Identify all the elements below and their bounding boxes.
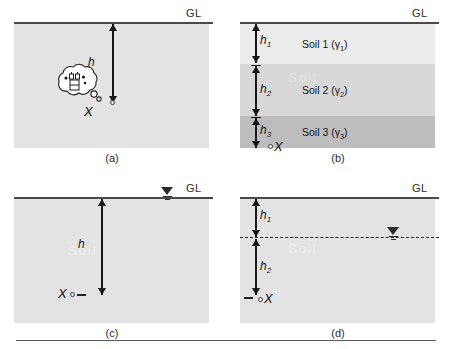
panel-c-depth-label: h [78,237,85,251]
panel-b-point-label: X [274,139,283,154]
panel-d-point-label: X [264,291,273,306]
vertical-stress-figure: Soil GL h X [0,0,451,349]
panel-b-caption: (b) [308,152,368,164]
panel-b-soil-label-3: Soil 3 (γ3) [302,126,348,141]
panel-c-caption: (c) [82,327,142,339]
thought-bubble-icon [46,60,110,112]
panel-d-ground-line [240,197,439,199]
footer-rule [16,340,436,341]
panel-c-point-label: X [58,286,67,301]
water-table-icon [161,187,174,200]
panel-b-depth-label-3: h3 [260,123,271,139]
panel-b-soil-label-2: Soil 2 (γ2) [302,84,348,99]
water-table-line [240,237,439,238]
panel-d-depth-label-2: h2 [260,259,271,275]
panel-a-gl-label: GL [186,7,201,19]
panel-c-depth-arrow [92,199,112,295]
panel-b-point-marker [268,144,273,149]
panel-d-gl-label: GL [412,182,427,194]
panel-d-watermark: Soil [288,241,318,256]
panel-b-depth-label-2: h2 [260,82,271,98]
panel-b-watermark: Soil [288,70,318,85]
panel-b-soil-label-1: Soil 1 (γ1) [302,38,348,53]
panel-d-point-tick [244,297,253,299]
panel-c-gl-label: GL [186,182,201,194]
panel-b-ground-line [240,22,439,24]
panel-d-caption: (d) [308,327,368,339]
panel-c-ground-line [14,197,213,199]
water-table-icon [387,227,400,240]
panel-a-caption: (a) [82,152,142,164]
panel-c-point-tick [77,294,86,296]
panel-b-gl-label: GL [412,7,427,19]
panel-d-depth-label-1: h1 [260,208,271,224]
panel-b-depth-label-1: h1 [260,33,271,49]
